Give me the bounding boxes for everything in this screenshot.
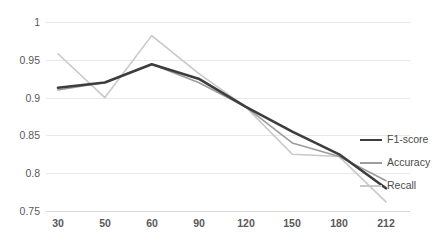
legend: F1-score Accuracy Recall xyxy=(360,128,438,197)
legend-label-f1-score: F1-score xyxy=(387,134,428,145)
legend-item-accuracy: Accuracy xyxy=(360,151,438,174)
line-chart: 1 0.95 0.9 0.85 0.8 0.75 30 50 60 90 120… xyxy=(0,0,438,248)
legend-swatch-accuracy xyxy=(360,162,382,164)
series-line-recall xyxy=(58,36,386,202)
legend-swatch-recall xyxy=(360,185,382,187)
legend-label-recall: Recall xyxy=(387,180,416,191)
series-line-f1-score xyxy=(58,64,386,188)
legend-label-accuracy: Accuracy xyxy=(387,157,430,168)
legend-swatch-f1-score xyxy=(360,139,382,141)
legend-item-f1-score: F1-score xyxy=(360,128,438,151)
series-layer xyxy=(0,0,438,248)
legend-item-recall: Recall xyxy=(360,174,438,197)
